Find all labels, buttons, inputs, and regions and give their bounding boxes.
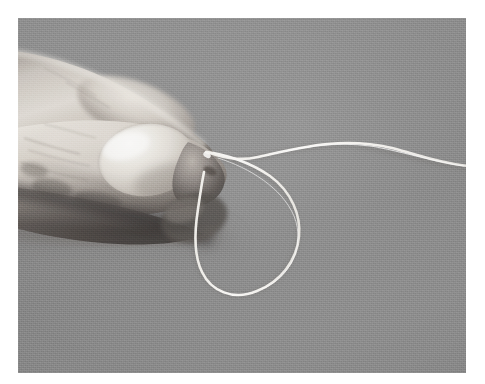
- print-tone: [18, 18, 466, 373]
- photograph-artwork: [18, 18, 466, 373]
- photograph: [18, 18, 466, 373]
- photo-canvas: A close-up black and white photograph of…: [0, 0, 485, 384]
